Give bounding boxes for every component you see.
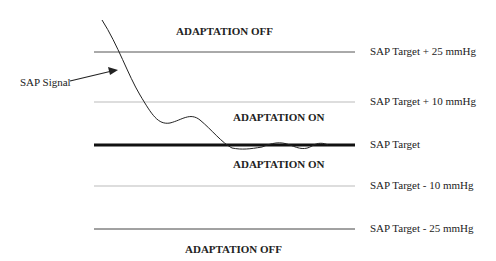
sap-signal-curve (102, 20, 328, 149)
arrow-head-icon (108, 67, 118, 75)
threshold-label-plus-25: SAP Target + 25 mmHg (370, 45, 476, 57)
zone-lower-off: ADAPTATION OFF (185, 243, 282, 255)
threshold-label-target: SAP Target (370, 138, 420, 150)
zone-upper-off: ADAPTATION OFF (176, 25, 273, 37)
signal-label: SAP Signal (20, 76, 71, 88)
zone-lower-on: ADAPTATION ON (233, 158, 325, 170)
signal-pointer-arrow (70, 71, 112, 81)
zone-upper-on: ADAPTATION ON (233, 111, 325, 123)
threshold-label-plus-10: SAP Target + 10 mmHg (370, 95, 476, 107)
threshold-label-minus-10: SAP Target - 10 mmHg (370, 179, 474, 191)
threshold-label-minus-25: SAP Target - 25 mmHg (370, 222, 474, 234)
